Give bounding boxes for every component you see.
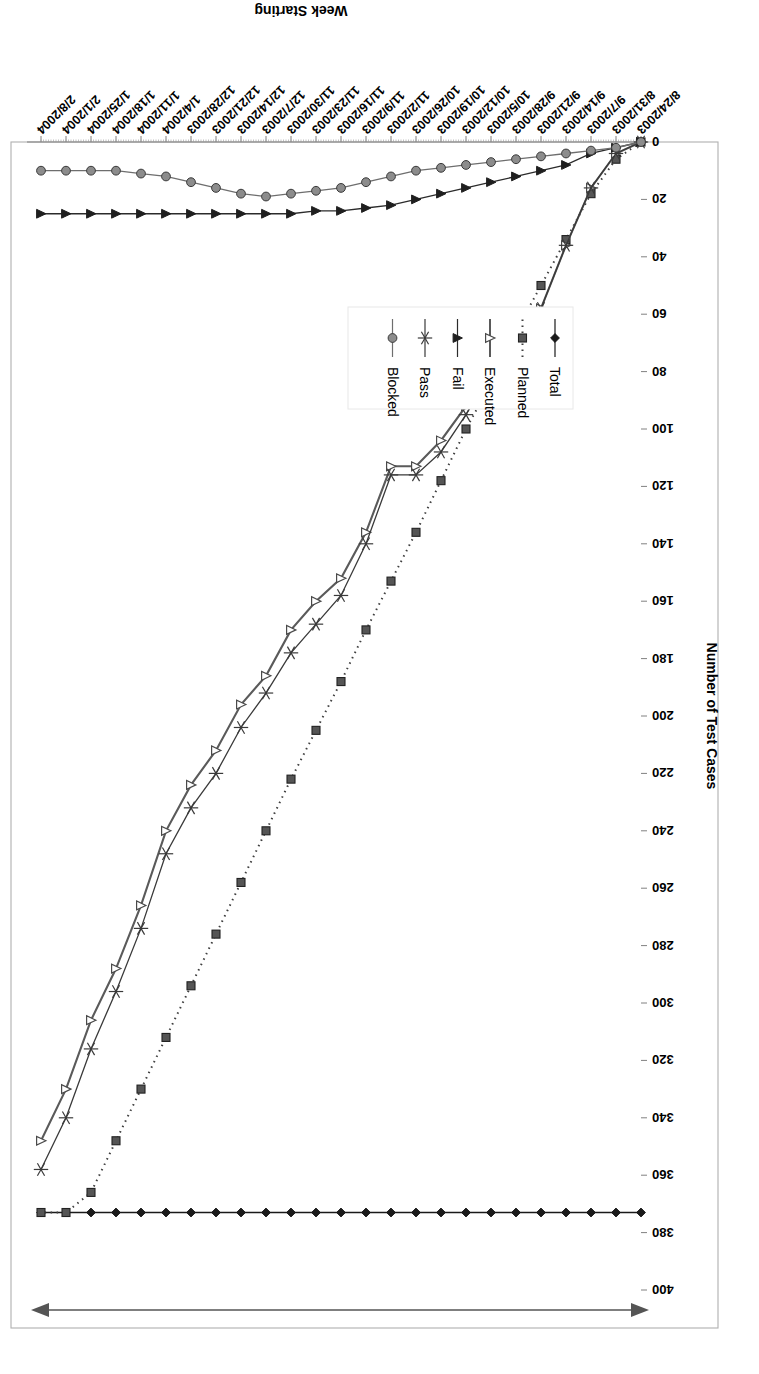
y-tick-label: 20: [652, 191, 666, 206]
y-tick-label: 140: [652, 536, 674, 551]
marker-square: [362, 626, 370, 634]
legend-item-label: Blocked: [385, 367, 401, 417]
marker-square: [162, 1033, 170, 1041]
marker-circle: [187, 178, 196, 187]
marker-square: [137, 1085, 145, 1093]
chart-legend: TotalPlannedExecutedFailPassBlocked: [348, 307, 573, 425]
marker-square: [262, 827, 270, 835]
marker-circle: [337, 184, 346, 193]
marker-circle: [112, 166, 121, 175]
marker-circle: [237, 189, 246, 198]
marker-circle: [87, 166, 96, 175]
rotated-chart-container: 0204060801001201401601802002202402602803…: [0, 0, 759, 1374]
marker-circle: [462, 161, 471, 170]
y-tick-label: 280: [652, 938, 674, 953]
y-tick-label: 160: [652, 593, 674, 608]
y-tick-label: 300: [652, 995, 674, 1010]
marker-circle: [587, 146, 596, 155]
marker-circle: [612, 143, 621, 152]
marker-square: [37, 1209, 45, 1217]
legend-item-label: Fail: [450, 367, 466, 390]
y-tick-label: 240: [652, 823, 674, 838]
marker-circle: [212, 184, 221, 193]
y-tick-label: 340: [652, 1110, 674, 1125]
marker-circle: [537, 152, 546, 161]
x-axis-title: Week Starting: [254, 3, 347, 19]
y-tick-label: 40: [652, 249, 666, 264]
marker-circle: [512, 155, 521, 164]
marker-square: [87, 1188, 95, 1196]
marker-square: [337, 678, 345, 686]
legend-item-label: Total: [547, 367, 563, 397]
marker-circle: [62, 166, 71, 175]
y-tick-label: 260: [652, 880, 674, 895]
y-tick-label: 220: [652, 765, 674, 780]
y-tick-label: 0: [652, 134, 659, 149]
marker-circle: [562, 149, 571, 158]
y-tick-label: 180: [652, 651, 674, 666]
y-axis-title: Number of Test Cases: [704, 643, 720, 790]
y-tick-label: 380: [652, 1225, 674, 1240]
marker-square: [462, 425, 470, 433]
legend-item-label: Executed: [482, 367, 498, 425]
y-tick-label: 100: [652, 421, 674, 436]
y-tick-label: 60: [652, 306, 666, 321]
test-progress-line-chart: 0204060801001201401601802002202402602803…: [0, 0, 759, 1374]
marker-square: [62, 1209, 70, 1217]
marker-circle: [262, 192, 271, 201]
marker-circle: [487, 158, 496, 167]
marker-square: [412, 528, 420, 536]
marker-square: [112, 1137, 120, 1145]
legend-box: [348, 307, 573, 409]
marker-square: [287, 775, 295, 783]
marker-circle: [137, 169, 146, 178]
marker-circle: [387, 172, 396, 181]
marker-square: [212, 930, 220, 938]
legend-item-label: Planned: [515, 367, 531, 418]
marker-circle: [312, 186, 321, 195]
marker-square: [237, 878, 245, 886]
marker-circle: [437, 163, 446, 172]
marker-square: [437, 477, 445, 485]
marker-circle: [287, 189, 296, 198]
y-tick-label: 80: [652, 364, 666, 379]
chart-page: 0204060801001201401601802002202402602803…: [0, 0, 759, 1374]
y-tick-label: 320: [652, 1052, 674, 1067]
y-tick-label: 200: [652, 708, 674, 723]
marker-square: [519, 334, 527, 342]
marker-circle: [37, 166, 46, 175]
marker-square: [387, 577, 395, 585]
marker-square: [537, 282, 545, 290]
marker-circle: [362, 178, 371, 187]
legend-item-label: Pass: [417, 367, 433, 398]
marker-circle: [637, 138, 646, 147]
y-tick-label: 360: [652, 1167, 674, 1182]
marker-circle: [162, 172, 171, 181]
marker-circle: [412, 166, 421, 175]
marker-square: [312, 726, 320, 734]
y-tick-label: 400: [652, 1282, 674, 1297]
marker-square: [187, 982, 195, 990]
marker-circle: [388, 334, 397, 343]
y-tick-label: 120: [652, 478, 674, 493]
